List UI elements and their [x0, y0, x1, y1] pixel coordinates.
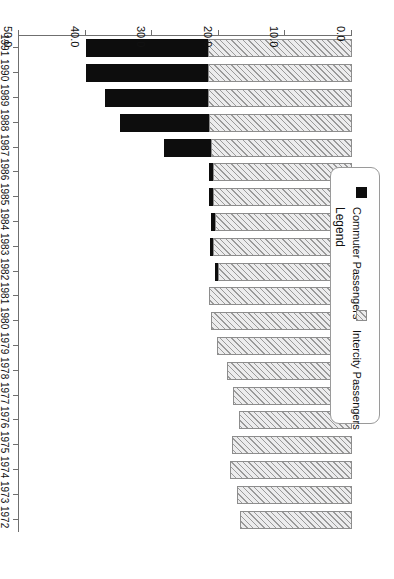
- chart-canvas: 0.010.020.030.040.050.0 Million passenge…: [0, 0, 394, 579]
- category-tick: [13, 295, 19, 296]
- category-tick: [13, 97, 19, 98]
- bar-segment-commuter: [120, 114, 209, 132]
- bar-row: [19, 263, 352, 281]
- legend-box: Legend Commuter Passengers Intercity Pas…: [330, 167, 380, 424]
- bar-row: [19, 486, 352, 504]
- category-tick: [13, 519, 19, 520]
- category-tick-label: 1974: [0, 456, 10, 478]
- value-tick: [85, 30, 86, 36]
- bar-segment-commuter: [105, 89, 208, 107]
- bar-segment-intercity: [208, 39, 352, 57]
- category-tick-label: 1983: [0, 233, 10, 255]
- category-tick: [13, 246, 19, 247]
- category-tick-label: 1979: [0, 332, 10, 354]
- category-tick: [13, 444, 19, 445]
- category-tick-label: 1975: [0, 431, 10, 453]
- bar-segment-commuter: [211, 213, 215, 231]
- category-tick: [13, 494, 19, 495]
- bar-row: [19, 387, 352, 405]
- category-tick-label: 1972: [0, 506, 10, 528]
- value-tick-label: 0.0: [335, 26, 347, 41]
- legend-label-commuter: Commuter Passengers: [351, 207, 363, 320]
- bar-row: [19, 163, 352, 181]
- category-tick-label: 1987: [0, 134, 10, 156]
- category-tick: [13, 271, 19, 272]
- bar-row: [19, 64, 352, 82]
- category-tick-label: 1985: [0, 183, 10, 205]
- bar-segment-intercity: [208, 64, 352, 82]
- value-tick: [351, 30, 352, 36]
- category-tick-label: 1976: [0, 406, 10, 428]
- bar-row: [19, 287, 352, 305]
- category-tick-label: 1986: [0, 158, 10, 180]
- category-tick: [13, 147, 19, 148]
- bar-segment-intercity: [211, 139, 352, 157]
- bar-row: [19, 337, 352, 355]
- legend-swatch-intercity: [356, 310, 367, 321]
- bar-row: [19, 511, 352, 529]
- category-tick: [13, 395, 19, 396]
- bar-segment-intercity: [237, 486, 352, 504]
- value-tick-label: 30.0: [135, 26, 147, 47]
- bar-row: [19, 114, 352, 132]
- bar-row: [19, 312, 352, 330]
- bar-segment-intercity: [240, 511, 352, 529]
- plot-area: [19, 36, 352, 532]
- bar-row: [19, 139, 352, 157]
- value-tick: [151, 30, 152, 36]
- bar-row: [19, 362, 352, 380]
- category-tick: [13, 196, 19, 197]
- category-tick: [13, 419, 19, 420]
- category-tick: [13, 122, 19, 123]
- category-tick: [13, 345, 19, 346]
- value-tick-label: 10.0: [268, 26, 280, 47]
- bar-segment-intercity: [232, 436, 352, 454]
- category-tick: [13, 469, 19, 470]
- category-tick-label: 1991: [0, 34, 10, 56]
- category-tick-label: 1977: [0, 382, 10, 404]
- category-tick-label: 1990: [0, 59, 10, 81]
- category-tick-label: 1988: [0, 109, 10, 131]
- category-tick-label: 1978: [0, 357, 10, 379]
- value-tick-label: 40.0: [69, 26, 81, 47]
- bar-row: [19, 188, 352, 206]
- bar-segment-intercity: [208, 89, 352, 107]
- bar-row: [19, 238, 352, 256]
- bar-segment-commuter: [209, 188, 214, 206]
- bar-row: [19, 411, 352, 429]
- rotated-figure: 0.010.020.030.040.050.0 Million passenge…: [0, 0, 394, 579]
- bar-row: [19, 461, 352, 479]
- legend-label-intercity: Intercity Passengers: [351, 330, 363, 430]
- bar-segment-intercity: [209, 114, 352, 132]
- category-tick: [13, 370, 19, 371]
- bar-segment-commuter: [210, 238, 213, 256]
- bar-segment-commuter: [210, 163, 214, 181]
- category-tick: [13, 320, 19, 321]
- bar-row: [19, 436, 352, 454]
- bar-row: [19, 213, 352, 231]
- category-tick: [13, 171, 19, 172]
- bar-row: [19, 89, 352, 107]
- bar-segment-commuter: [215, 263, 218, 281]
- value-tick: [284, 30, 285, 36]
- bar-segment-commuter: [164, 139, 211, 157]
- category-axis-line: [18, 36, 19, 532]
- category-tick-label: 1981: [0, 282, 10, 304]
- category-axis-title: Year: [0, 249, 1, 273]
- category-tick-label: 1989: [0, 84, 10, 106]
- category-tick: [13, 221, 19, 222]
- category-tick-label: 1984: [0, 208, 10, 230]
- bar-segment-commuter: [86, 64, 208, 82]
- bar-segment-intercity: [230, 461, 352, 479]
- category-tick: [13, 72, 19, 73]
- value-tick: [218, 30, 219, 36]
- category-tick: [13, 47, 19, 48]
- category-tick-label: 1973: [0, 481, 10, 503]
- legend-swatch-commuter: [356, 187, 367, 198]
- category-tick-label: 1982: [0, 258, 10, 280]
- category-tick-label: 1980: [0, 307, 10, 329]
- value-tick-label: 20.0: [202, 26, 214, 47]
- legend-title: Legend: [333, 207, 347, 247]
